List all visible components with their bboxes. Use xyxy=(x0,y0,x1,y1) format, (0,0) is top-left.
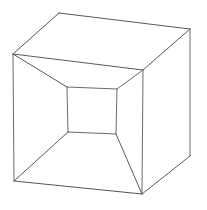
canvas-background xyxy=(0,0,207,210)
cube-line-drawing xyxy=(0,0,207,210)
